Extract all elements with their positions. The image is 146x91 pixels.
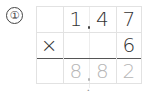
digit-cell — [63, 32, 90, 58]
digit-cell — [89, 32, 116, 58]
digit-cell — [36, 6, 63, 32]
multiply-sign: × — [36, 32, 63, 58]
digit-cell: 6 — [116, 32, 143, 58]
digit-cell: 7 — [116, 6, 143, 32]
answer-cell: 8 — [89, 58, 116, 84]
problem-number-label: ① — [6, 7, 23, 24]
answer-cell: 2 — [116, 58, 143, 84]
answer-cell — [36, 58, 63, 84]
digit-cell: 4 — [89, 6, 116, 32]
decimal-point — [88, 26, 91, 29]
digit-cell: 1 — [63, 6, 90, 32]
decimal-arrow-icon: ▲ — [86, 88, 91, 91]
answer-decimal-point — [88, 78, 91, 81]
answer-cell: 8 — [63, 58, 90, 84]
multiplication-grid: 1 4 7 × 6 8 8 2 ▲ — [36, 6, 142, 84]
